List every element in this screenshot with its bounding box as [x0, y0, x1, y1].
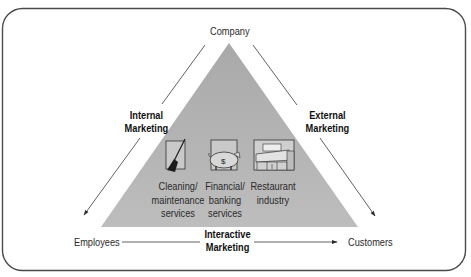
service-restaurant-line2: industry	[242, 194, 304, 208]
piggy-bank-icon: $	[209, 140, 240, 170]
interactive-marketing-line2: Marketing	[202, 241, 253, 254]
customers-label: Customers	[348, 236, 393, 249]
company-label: Company	[210, 25, 250, 38]
interactive-marketing-line1: Interactive	[202, 228, 253, 241]
external-marketing-label: External Marketing	[301, 109, 354, 135]
service-restaurant-line1: Restaurant	[242, 180, 304, 194]
internal-marketing-line2: Marketing	[120, 122, 173, 135]
internal-marketing-label: Internal Marketing	[120, 109, 173, 135]
restaurant-counter-icon	[254, 140, 294, 170]
service-restaurant: Restaurant industry	[242, 180, 304, 207]
interactive-marketing-label: Interactive Marketing	[202, 228, 253, 254]
svg-text:$: $	[221, 157, 226, 166]
employees-label: Employees	[74, 236, 120, 249]
external-marketing-line2: Marketing	[301, 122, 354, 135]
external-marketing-line1: External	[301, 109, 354, 122]
internal-marketing-line1: Internal	[120, 109, 173, 122]
service-financial-line3: services	[194, 207, 256, 221]
broom-icon	[166, 139, 185, 172]
